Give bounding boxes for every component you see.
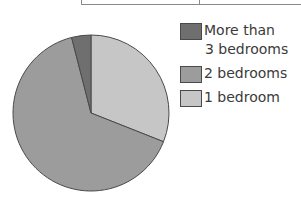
legend-label: 3 bedrooms (204, 40, 288, 59)
legend-item-more-than-3: More than 3 bedrooms (180, 21, 288, 59)
legend-label: More than (204, 21, 288, 40)
legend-swatch (180, 66, 202, 83)
legend-swatch (180, 23, 202, 40)
legend-label: 1 bedroom (204, 88, 280, 107)
legend: More than 3 bedrooms 2 bedrooms 1 bedroo… (180, 21, 288, 112)
legend-swatch (180, 90, 202, 107)
legend-item-2-bedrooms: 2 bedrooms (180, 64, 288, 83)
legend-item-1-bedroom: 1 bedroom (180, 88, 288, 107)
legend-label: 2 bedrooms (204, 64, 287, 83)
